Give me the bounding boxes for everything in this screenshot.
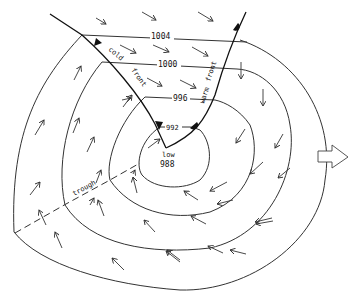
warm-front-semicircle-icon <box>233 23 240 31</box>
trough-label: trough <box>71 179 97 198</box>
isobar-996 <box>109 97 254 215</box>
isobar-label-992: 992 <box>166 124 179 132</box>
warm-front-label-2: front <box>204 60 218 83</box>
warm-front-label-1: warm <box>198 86 211 105</box>
trough-line <box>15 163 140 233</box>
right-arrow-icon <box>318 145 348 168</box>
cyclone-diagram: 1004 1000 996 992 low 988 cold front fro… <box>0 0 355 299</box>
cold-front-line <box>50 14 166 148</box>
low-label: low <box>162 151 175 159</box>
wind-arrows <box>30 12 290 270</box>
low-pressure-value: 988 <box>160 160 175 169</box>
cold-front-triangle-icon <box>94 38 102 46</box>
cold-front-label-1: cold <box>107 45 125 62</box>
isobar-label-996: 996 <box>173 94 188 103</box>
isobar-label-1000: 1000 <box>158 60 177 69</box>
cold-front-label-2: front <box>129 67 148 89</box>
isobar-label-1004: 1004 <box>151 32 170 41</box>
